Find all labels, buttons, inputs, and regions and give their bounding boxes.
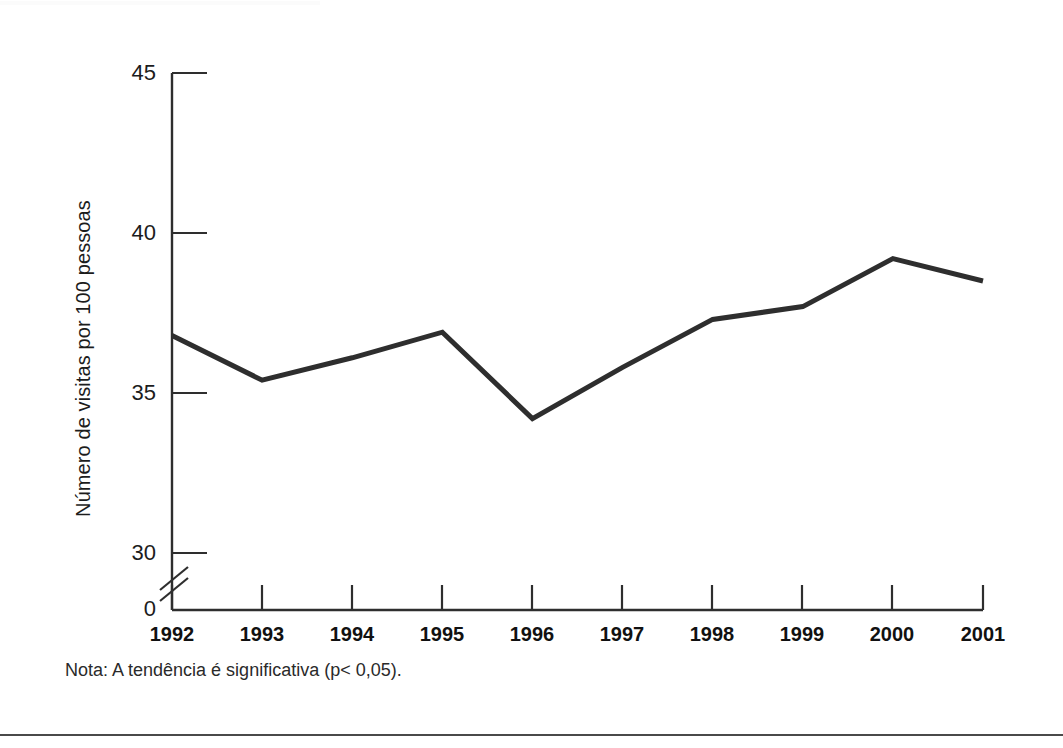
y-tick-label-35: 35: [106, 380, 156, 406]
y-tick-label-45: 45: [106, 60, 156, 86]
x-tick-label-2000: 2000: [847, 623, 937, 646]
y-tick-label-40: 40: [106, 220, 156, 246]
x-tick-label-1999: 1999: [757, 623, 847, 646]
line-chart: [40, 45, 1022, 705]
x-tick-label-1995: 1995: [397, 623, 487, 646]
x-tick-label-1993: 1993: [217, 623, 307, 646]
figure-frame: 45 40 35 30 0 1992 1993 1994 1995 1996 1…: [40, 45, 1022, 705]
x-tick-label-2001: 2001: [938, 623, 1028, 646]
chart-note: Nota: A tendência é significativa (p< 0,…: [65, 660, 402, 681]
scan-artifact: [0, 1, 320, 5]
x-tick-label-1997: 1997: [577, 623, 667, 646]
x-tick-label-1992: 1992: [127, 623, 217, 646]
x-tick-label-1994: 1994: [307, 623, 397, 646]
data-series-line: [172, 259, 983, 419]
axis-break-icon: [160, 567, 188, 601]
y-axis-title: Número de visitas por 100 pessoas: [72, 149, 95, 569]
x-tick-label-1998: 1998: [667, 623, 757, 646]
x-tick-label-1996: 1996: [487, 623, 577, 646]
plot-area: 45 40 35 30 0 1992 1993 1994 1995 1996 1…: [40, 45, 1022, 705]
page-divider-rule: [0, 734, 1063, 736]
y-tick-label-30: 30: [106, 540, 156, 566]
y-tick-label-0: 0: [106, 596, 156, 622]
